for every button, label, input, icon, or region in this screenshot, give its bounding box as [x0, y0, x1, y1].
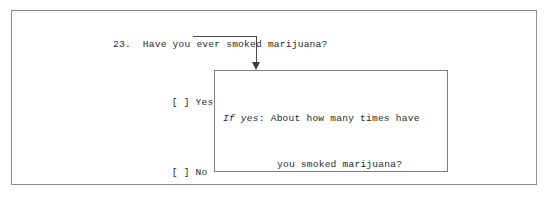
skip-arrow-arrowhead-icon: [252, 62, 260, 70]
answer-label-no: No: [196, 167, 208, 178]
answer-label-yes: Yes: [196, 97, 214, 108]
followup-lead-line: If yes: About how many times have: [223, 113, 420, 125]
figure-root: 23. Have you ever smoked marijuana? [ ] …: [0, 0, 551, 200]
checkbox-no[interactable]: [ ]: [172, 167, 190, 178]
skip-arrow-vertical-segment: [256, 36, 257, 63]
followup-box: If yes: About how many times have you sm…: [214, 70, 448, 172]
followup-condition-label: If yes: [223, 113, 259, 124]
followup-content: If yes: About how many times have you sm…: [223, 78, 420, 200]
followup-prompt-line-1: About how many times have: [271, 113, 420, 124]
question-stem: 23. Have you ever smoked marijuana?: [113, 39, 327, 51]
skip-arrow-horizontal-segment: [193, 36, 257, 37]
followup-prompt-line-2: you smoked marijuana?: [277, 159, 420, 171]
checkbox-yes[interactable]: [ ]: [172, 97, 190, 108]
